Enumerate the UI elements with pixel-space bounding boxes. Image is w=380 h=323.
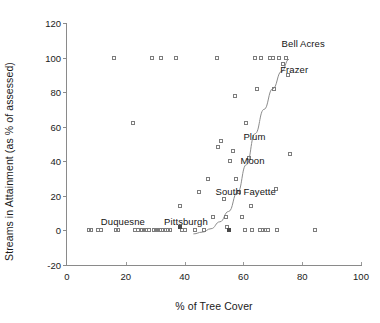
data-point bbox=[131, 121, 135, 125]
x-axis-line bbox=[66, 265, 362, 266]
data-point bbox=[224, 215, 228, 219]
y-tick-label: 40 bbox=[50, 156, 61, 167]
x-tick-label: 80 bbox=[297, 271, 308, 282]
data-point bbox=[206, 177, 210, 181]
data-point bbox=[136, 228, 140, 232]
data-point bbox=[234, 177, 238, 181]
y-tick-label: 100 bbox=[45, 52, 61, 63]
data-point bbox=[89, 228, 93, 232]
data-point bbox=[222, 197, 226, 201]
data-point bbox=[250, 228, 254, 232]
y-tick-label: 0 bbox=[56, 225, 61, 236]
data-point bbox=[227, 228, 231, 232]
x-tick-label: 60 bbox=[238, 271, 249, 282]
y-tick-label: 120 bbox=[45, 18, 61, 29]
data-point bbox=[228, 159, 232, 163]
data-point bbox=[313, 228, 317, 232]
data-point bbox=[147, 228, 151, 232]
x-tick-label: 0 bbox=[64, 271, 69, 282]
data-point bbox=[178, 204, 182, 208]
data-point bbox=[168, 228, 172, 232]
data-point bbox=[255, 87, 259, 91]
y-tick-label: 20 bbox=[50, 190, 61, 201]
data-point bbox=[219, 139, 223, 143]
data-point bbox=[288, 152, 292, 156]
data-point bbox=[215, 56, 219, 60]
data-point bbox=[253, 56, 257, 60]
x-tick-mark bbox=[361, 262, 362, 265]
point-label: Pittsburgh bbox=[164, 216, 208, 227]
data-point bbox=[271, 56, 275, 60]
data-point bbox=[277, 56, 281, 60]
data-point bbox=[116, 228, 120, 232]
plot-area: -20020406080100120 020406080100 Bell Acr… bbox=[67, 23, 361, 265]
data-point bbox=[272, 87, 276, 91]
point-label: Moon bbox=[240, 155, 264, 166]
data-point bbox=[231, 149, 235, 153]
y-tick-label: 60 bbox=[50, 121, 61, 132]
data-point bbox=[266, 228, 270, 232]
data-point bbox=[150, 56, 154, 60]
data-point bbox=[233, 94, 237, 98]
y-axis-title: Streams in Attainment (as % of assessed) bbox=[0, 0, 18, 323]
data-point bbox=[112, 56, 116, 60]
data-point bbox=[216, 145, 220, 149]
x-tick-label: 100 bbox=[353, 271, 369, 282]
y-tick-mark bbox=[63, 265, 67, 266]
data-point bbox=[183, 228, 187, 232]
data-point bbox=[259, 56, 263, 60]
data-point bbox=[174, 56, 178, 60]
data-point bbox=[211, 215, 215, 219]
data-point bbox=[99, 228, 103, 232]
point-label: Bell Acres bbox=[282, 38, 325, 49]
data-point bbox=[202, 228, 206, 232]
data-point bbox=[240, 215, 244, 219]
y-tick-label: 80 bbox=[50, 87, 61, 98]
x-tick-label: 20 bbox=[121, 271, 132, 282]
data-point bbox=[249, 204, 253, 208]
data-point bbox=[275, 228, 279, 232]
x-axis-title: % of Tree Cover bbox=[67, 300, 361, 312]
data-point bbox=[193, 228, 197, 232]
data-point bbox=[284, 56, 288, 60]
data-point bbox=[244, 121, 248, 125]
point-label: South Fayette bbox=[215, 186, 275, 197]
point-label: Frazer bbox=[280, 64, 308, 75]
x-tick-label: 40 bbox=[179, 271, 190, 282]
data-point bbox=[243, 228, 247, 232]
scatter-plot-figure: Streams in Attainment (as % of assessed)… bbox=[0, 0, 380, 323]
point-label: Duquesne bbox=[101, 216, 145, 227]
data-point bbox=[197, 190, 201, 194]
point-label: Plum bbox=[243, 131, 265, 142]
data-point bbox=[159, 56, 163, 60]
y-tick-label: -20 bbox=[47, 260, 61, 271]
